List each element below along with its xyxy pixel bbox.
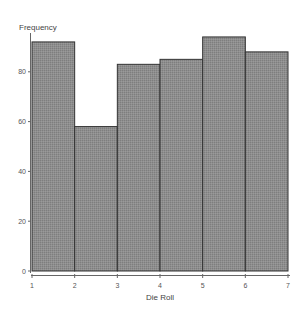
x-tick-label: 3 (115, 282, 119, 289)
y-axis: 020406080 (18, 33, 31, 275)
x-tick-label: 4 (158, 282, 162, 289)
x-axis: 1234567 (30, 274, 290, 289)
histogram-bar (160, 59, 203, 271)
histogram-chart: Frequency 020406080 1234567 Die Roll (0, 0, 305, 317)
y-tick-label: 60 (18, 118, 26, 125)
x-axis-title: Die Roll (146, 293, 174, 302)
histogram-bar (245, 52, 288, 271)
x-tick-label: 6 (243, 282, 247, 289)
x-tick-label: 1 (30, 282, 34, 289)
x-tick-label: 7 (286, 282, 290, 289)
x-tick-label: 5 (201, 282, 205, 289)
y-tick-label: 20 (18, 218, 26, 225)
histogram-bar (117, 64, 160, 271)
bars-group (32, 37, 288, 271)
y-tick-label: 80 (18, 68, 26, 75)
histogram-bar (75, 127, 118, 271)
histogram-bar (32, 42, 75, 271)
histogram-bar (203, 37, 246, 271)
x-tick-label: 2 (73, 282, 77, 289)
y-tick-label: 0 (22, 268, 26, 275)
y-tick-label: 40 (18, 168, 26, 175)
y-axis-title: Frequency (19, 23, 57, 32)
